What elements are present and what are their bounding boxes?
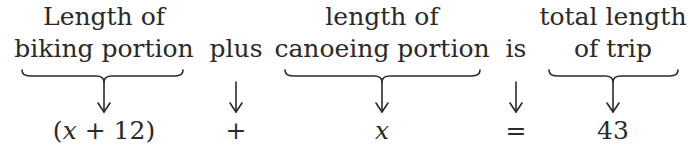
expr-total: 43 bbox=[597, 116, 629, 146]
arrow-down-icon bbox=[376, 82, 388, 112]
expr-canoeing: x bbox=[375, 116, 389, 146]
arrow-down-icon bbox=[510, 82, 522, 112]
arrow-down-icon bbox=[98, 82, 110, 112]
brace-canoeing bbox=[285, 70, 480, 82]
brace-total bbox=[549, 70, 678, 82]
arrow-down-icon bbox=[230, 82, 242, 112]
expr-equals: = bbox=[506, 116, 527, 146]
brace-biking bbox=[22, 70, 183, 82]
expr-plus: + bbox=[226, 116, 247, 146]
arrow-down-icon bbox=[607, 82, 619, 112]
expr-biking: (x + 12) bbox=[53, 116, 155, 146]
